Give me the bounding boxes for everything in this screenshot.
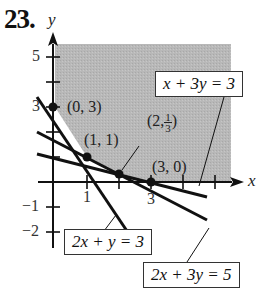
equation-box-x-plus-3y-eq-3: x + 3y = 3 xyxy=(155,71,243,97)
equation-text: 2x + 3y = 5 xyxy=(151,265,232,284)
leader-eq-3 xyxy=(187,228,209,262)
equation-box-2x-plus-y-eq-3: 2x + y = 3 xyxy=(64,229,152,255)
fraction-denominator: 3 xyxy=(164,123,172,133)
fraction-one-third: 13 xyxy=(164,112,172,133)
vertex-2-third xyxy=(115,170,124,179)
x-tick-label-3: 3 xyxy=(147,190,155,208)
vertex-label-1-1: (1, 1) xyxy=(84,131,119,149)
vertex-1-1 xyxy=(83,153,92,162)
y-axis-arrow xyxy=(48,32,58,46)
x-tick-label-1: 1 xyxy=(83,188,91,206)
equation-text: x + 3y = 3 xyxy=(163,74,235,93)
equation-box-2x-plus-3y-eq-5: 2x + 3y = 5 xyxy=(143,262,240,288)
y-tick-label-5: 5 xyxy=(32,47,40,65)
vertex-label-2-third: (2,13) xyxy=(147,112,177,133)
x-axis-label: x xyxy=(248,171,256,191)
x-axis-arrow xyxy=(230,177,244,187)
vertex-0-3 xyxy=(49,103,58,112)
y-axis-label: y xyxy=(48,10,56,30)
vertex-label-2-suffix: ) xyxy=(172,112,177,129)
y-tick-label-3: 3 xyxy=(32,97,40,115)
problem-number: 23. xyxy=(4,4,35,35)
vertex-label-3-0: (3, 0) xyxy=(152,158,187,176)
vertex-3-0 xyxy=(147,178,156,187)
y-tick-label-neg1: −1 xyxy=(22,197,39,215)
vertex-label-0-3: (0, 3) xyxy=(67,98,102,116)
equation-text: 2x + y = 3 xyxy=(72,232,144,251)
y-tick-label-neg2: −2 xyxy=(22,222,39,240)
vertex-label-2-prefix: (2, xyxy=(147,112,164,129)
